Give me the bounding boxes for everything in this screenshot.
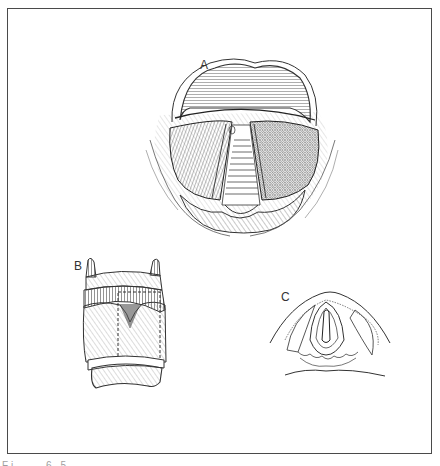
illustration-panel-c	[0, 0, 440, 466]
figure-caption-partial: Fi 6 5	[2, 459, 69, 466]
